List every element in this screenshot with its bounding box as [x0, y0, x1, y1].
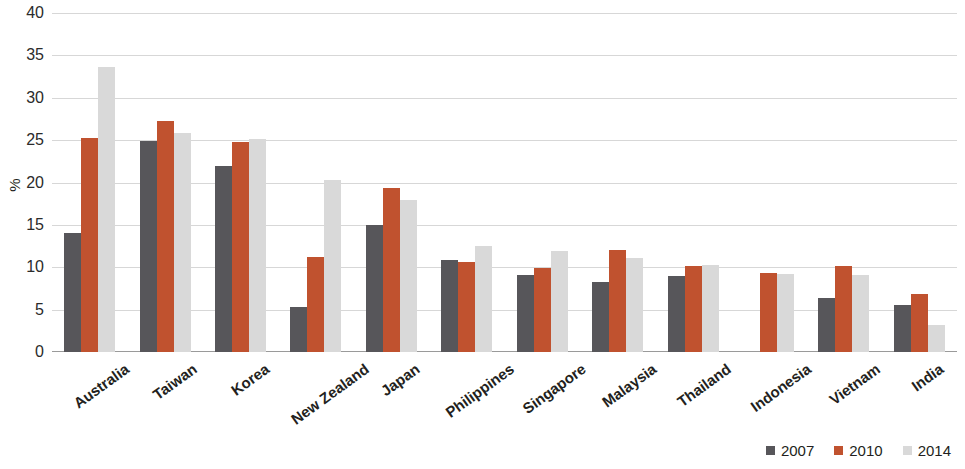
legend-label: 2007 — [781, 443, 814, 458]
legend-item-2007[interactable]: 2007 — [766, 443, 814, 458]
bar-group — [354, 13, 429, 352]
bar-vietnam-2010 — [835, 266, 852, 352]
bar-taiwan-2007 — [140, 141, 157, 352]
bar-malaysia-2007 — [592, 282, 609, 352]
x-label-cell: Thailand — [655, 354, 730, 450]
bar-new-zealand-2014 — [324, 180, 341, 352]
x-tick-label: Japan — [378, 360, 423, 399]
bar-chart: % 0510152025303540 AustraliaTaiwanKoreaN… — [0, 0, 965, 469]
y-tick-label: 20 — [10, 175, 44, 191]
bar-group — [580, 13, 655, 352]
x-label-cell: Singapore — [505, 354, 580, 450]
bar-group — [429, 13, 504, 352]
bar-india-2007 — [894, 305, 911, 352]
bar-taiwan-2014 — [174, 133, 191, 353]
legend-swatch-icon — [903, 446, 912, 455]
x-axis-labels: AustraliaTaiwanKoreaNew ZealandJapanPhil… — [52, 354, 957, 450]
x-tick-label: Thailand — [674, 360, 734, 410]
bar-group — [203, 13, 278, 352]
bar-indonesia-2014 — [777, 274, 794, 352]
x-label-cell: Malaysia — [580, 354, 655, 450]
legend-swatch-icon — [766, 446, 775, 455]
bar-singapore-2014 — [551, 251, 568, 352]
x-tick-label: Australia — [70, 360, 132, 411]
bar-vietnam-2007 — [818, 298, 835, 352]
bar-group — [882, 13, 957, 352]
y-tick-label: 35 — [10, 47, 44, 63]
plot-area — [52, 13, 957, 352]
bar-indonesia-2010 — [760, 273, 777, 352]
bar-japan-2007 — [366, 225, 383, 352]
y-tick-label: 10 — [10, 259, 44, 275]
x-tick-label: Indonesia — [747, 360, 814, 415]
bar-korea-2014 — [249, 139, 266, 352]
bar-korea-2010 — [232, 142, 249, 352]
bar-new-zealand-2010 — [307, 257, 324, 352]
x-label-cell: New Zealand — [278, 354, 353, 450]
x-label-cell: Japan — [354, 354, 429, 450]
y-tick-label: 5 — [10, 302, 44, 318]
bar-singapore-2007 — [517, 275, 534, 352]
bar-japan-2010 — [383, 188, 400, 352]
bar-australia-2007 — [64, 233, 81, 352]
bar-group — [731, 13, 806, 352]
bar-groups — [52, 13, 957, 352]
bar-group — [505, 13, 580, 352]
bar-group — [655, 13, 730, 352]
y-tick-label: 15 — [10, 217, 44, 233]
bar-new-zealand-2007 — [290, 307, 307, 352]
x-tick-label: Malaysia — [598, 360, 659, 411]
x-label-cell: Indonesia — [731, 354, 806, 450]
y-axis-tick-labels: 0510152025303540 — [0, 0, 44, 469]
bar-group — [52, 13, 127, 352]
bar-group — [806, 13, 881, 352]
x-tick-label: India — [909, 360, 947, 394]
legend-item-2010[interactable]: 2010 — [834, 443, 882, 458]
x-label-cell: Australia — [52, 354, 127, 450]
legend-label: 2014 — [918, 443, 951, 458]
bar-philippines-2014 — [475, 246, 492, 352]
x-label-cell: Vietnam — [806, 354, 881, 450]
legend-swatch-icon — [834, 446, 843, 455]
bar-india-2010 — [911, 294, 928, 352]
bar-japan-2014 — [400, 200, 417, 352]
bar-malaysia-2014 — [626, 258, 643, 352]
y-tick-label: 0 — [10, 344, 44, 360]
bar-australia-2014 — [98, 67, 115, 352]
y-tick-label: 40 — [10, 5, 44, 21]
x-tick-label: Singapore — [520, 360, 589, 417]
bar-singapore-2010 — [534, 268, 551, 352]
chart-legend: 200720102014 — [766, 443, 951, 458]
bar-korea-2007 — [215, 166, 232, 352]
x-label-cell: Taiwan — [127, 354, 202, 450]
bar-australia-2010 — [81, 138, 98, 352]
x-label-cell: Korea — [203, 354, 278, 450]
bar-group — [127, 13, 202, 352]
x-label-cell: India — [882, 354, 957, 450]
bar-vietnam-2014 — [852, 275, 869, 352]
bar-philippines-2007 — [441, 260, 458, 352]
bar-india-2014 — [928, 325, 945, 352]
bar-philippines-2010 — [458, 262, 475, 352]
bar-thailand-2007 — [668, 276, 685, 352]
bar-taiwan-2010 — [157, 121, 174, 352]
x-tick-label: Taiwan — [150, 360, 200, 403]
y-tick-label: 25 — [10, 132, 44, 148]
bar-thailand-2010 — [685, 266, 702, 352]
bar-malaysia-2010 — [609, 250, 626, 352]
x-tick-label: Korea — [227, 360, 271, 399]
bar-group — [278, 13, 353, 352]
legend-item-2014[interactable]: 2014 — [903, 443, 951, 458]
bar-thailand-2014 — [702, 265, 719, 352]
x-tick-label: Vietnam — [826, 360, 883, 408]
y-tick-label: 30 — [10, 90, 44, 106]
legend-label: 2010 — [849, 443, 882, 458]
x-label-cell: Philippines — [429, 354, 504, 450]
